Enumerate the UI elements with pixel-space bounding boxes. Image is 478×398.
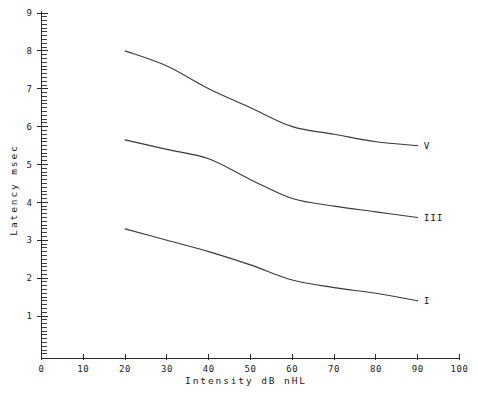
x-tick-label: 60 — [286, 364, 298, 374]
y-tick-label: 4 — [26, 198, 32, 208]
x-tick-label: 40 — [203, 364, 215, 374]
y-tick-label: 5 — [26, 160, 32, 170]
x-tick-label: 30 — [161, 364, 173, 374]
series-label-iii: III — [424, 212, 444, 223]
x-tick-label: 20 — [119, 364, 131, 374]
y-tick-label: 9 — [26, 8, 32, 18]
y-tick-label: 6 — [26, 122, 32, 132]
x-axis-title: Intensity dB nHL — [185, 375, 307, 386]
x-tick-label: 90 — [412, 364, 424, 374]
x-tick-label: 50 — [244, 364, 256, 374]
y-axis-title: Latency msec — [8, 144, 19, 235]
x-tick-label: 10 — [77, 364, 89, 374]
x-tick-label: 100 — [450, 364, 468, 374]
y-tick-label: 1 — [26, 311, 32, 321]
y-tick-label: 8 — [26, 46, 32, 56]
y-tick-label: 3 — [26, 235, 32, 245]
chart-container: 123456789 0102030405060708090100 VIIII I… — [0, 0, 478, 398]
chart-background — [0, 0, 478, 398]
latency-intensity-line-chart: 123456789 0102030405060708090100 VIIII I… — [0, 0, 478, 398]
x-tick-label: 70 — [328, 364, 340, 374]
y-tick-label: 7 — [26, 84, 32, 94]
y-axis-tick-labels: 123456789 — [26, 8, 32, 321]
x-tick-label: 80 — [370, 364, 382, 374]
series-label-i: I — [424, 295, 431, 306]
y-tick-label: 2 — [26, 273, 32, 283]
x-tick-label: 0 — [38, 364, 44, 374]
series-label-v: V — [424, 140, 431, 151]
